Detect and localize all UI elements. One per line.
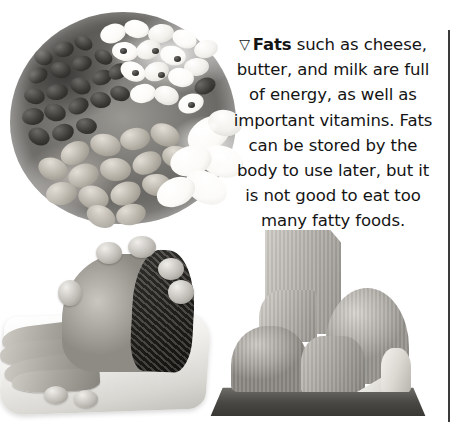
caption-text-block: ▽Fats such as cheese, butter, and milk a…: [231, 32, 435, 234]
cheese-round-small: [381, 348, 411, 392]
cheese-photo: [215, 228, 421, 422]
caption-body: such as cheese, butter, and milk are ful…: [234, 35, 433, 230]
beans-photo: [4, 6, 242, 238]
cheese-small-wheel: [231, 326, 309, 392]
column-rule: [448, 30, 450, 422]
cheese-wedge-front: [301, 336, 365, 392]
caption-term: Fats: [253, 35, 292, 54]
page-canvas: ▽Fats such as cheese, butter, and milk a…: [0, 0, 459, 422]
ham-photo: [0, 236, 220, 422]
triangle-down-outline-icon: ▽: [239, 37, 250, 51]
